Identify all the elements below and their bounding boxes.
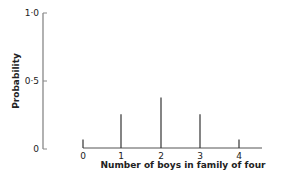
- x-axis: 0 1 2 3 4 Number of boys in family of fo…: [80, 148, 266, 170]
- probability-chart: 1·0 0·5 0 Probability 0 1 2 3 4 Number o…: [0, 0, 289, 178]
- x-tick-0: 0: [80, 151, 86, 161]
- y-tick-0: 0: [33, 144, 39, 154]
- y-axis: 1·0 0·5 0 Probability: [11, 8, 47, 154]
- bar-series: [83, 97, 239, 148]
- x-axis-label: Number of boys in family of four: [101, 160, 267, 170]
- y-axis-label: Probability: [11, 53, 21, 109]
- y-tick-1: 1·0: [25, 8, 40, 18]
- y-tick-05: 0·5: [25, 76, 39, 86]
